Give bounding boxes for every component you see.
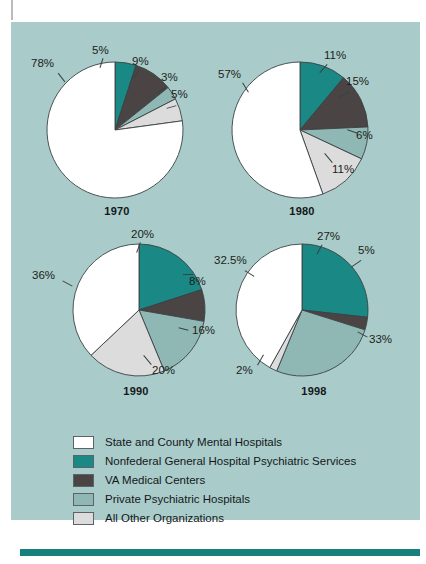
- legend-swatch-private-psychiatric: [73, 493, 94, 506]
- slice-label-1998-private: 33%: [369, 333, 392, 345]
- page-edge-mark: [11, 0, 13, 20]
- legend-label-nonfederal-general: Nonfederal General Hospital Psychiatric …: [105, 456, 356, 468]
- pie-panel-1980: 11% 15% 6% 11% 57% 1980: [224, 44, 409, 229]
- figure-panel: 5% 9% 3% 5% 78% 1970: [11, 22, 420, 520]
- legend-swatch-state-county: [73, 436, 94, 449]
- pie-panel-1998: 27% 5% 33% 2% 32.5% 1998: [224, 228, 414, 408]
- pie-chart-1998: [234, 238, 394, 388]
- slice-label-1980-allother: 11%: [332, 163, 354, 175]
- legend-item-nonfederal-general: Nonfederal General Hospital Psychiatric …: [73, 452, 373, 471]
- legend-swatch-va-medical: [73, 474, 94, 487]
- slice-label-1970-private: 3%: [161, 71, 178, 83]
- pie-chart-1970: [43, 54, 203, 206]
- legend-item-private-psychiatric: Private Psychiatric Hospitals: [73, 490, 373, 509]
- slice-label-1990-state: 36%: [32, 269, 55, 281]
- slice-label-1998-nonfederal: 27%: [317, 230, 340, 242]
- legend-swatch-nonfederal-general: [73, 455, 94, 468]
- slice-label-1970-nonfederal: 5%: [92, 44, 109, 56]
- legend-item-all-other: All Other Organizations: [73, 509, 373, 528]
- slice-label-1990-allother: 20%: [152, 364, 175, 376]
- legend-label-all-other: All Other Organizations: [105, 513, 224, 525]
- pie-year-1980: 1980: [272, 205, 332, 217]
- slice-label-1990-nonfederal: 20%: [131, 228, 154, 240]
- slice-label-1970-va: 9%: [132, 55, 149, 67]
- slice-label-1990-va: 8%: [189, 275, 206, 287]
- pie-chart-1990: [69, 238, 229, 388]
- pie-year-1990: 1990: [106, 385, 166, 397]
- legend-label-private-psychiatric: Private Psychiatric Hospitals: [105, 494, 250, 506]
- legend-swatch-all-other: [73, 512, 94, 525]
- pie-panel-1970: 5% 9% 3% 5% 78% 1970: [35, 44, 215, 229]
- legend-item-va-medical: VA Medical Centers: [73, 471, 373, 490]
- slice-label-1980-private: 6%: [356, 129, 373, 141]
- slice-label-1998-state: 32.5%: [214, 254, 247, 266]
- slice-label-1970-state: 78%: [31, 57, 54, 69]
- pie-year-1998: 1998: [284, 385, 344, 397]
- slice-label-1970-allother: 5%: [171, 88, 188, 100]
- legend: State and County Mental Hospitals Nonfed…: [73, 433, 373, 529]
- legend-item-state-county: State and County Mental Hospitals: [73, 433, 373, 452]
- slice-label-1990-private: 16%: [192, 324, 215, 336]
- slice-label-1980-va: 15%: [346, 75, 369, 87]
- legend-label-state-county: State and County Mental Hospitals: [105, 437, 282, 449]
- slice-label-1998-va: 5%: [358, 244, 375, 256]
- slice-label-1980-state: 57%: [218, 68, 241, 80]
- legend-label-va-medical: VA Medical Centers: [105, 475, 205, 487]
- bottom-rule: [20, 549, 420, 556]
- slice-label-1998-allother: 2%: [236, 364, 253, 376]
- pie-year-1970: 1970: [87, 205, 147, 217]
- leader-1990-va: [183, 274, 193, 275]
- slice-label-1980-nonfederal: 11%: [324, 49, 346, 61]
